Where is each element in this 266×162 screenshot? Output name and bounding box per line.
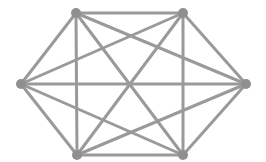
node-top-left — [71, 8, 81, 18]
node-left — [16, 79, 26, 89]
node-bottom-left — [72, 150, 82, 160]
complete-graph-diagram — [0, 0, 266, 162]
node-top-right — [178, 8, 188, 18]
node-right — [241, 79, 251, 89]
edges-group — [21, 13, 246, 155]
edge-right-bottom-right — [183, 84, 246, 155]
edge-top-right-right — [183, 13, 246, 84]
node-bottom-right — [178, 150, 188, 160]
